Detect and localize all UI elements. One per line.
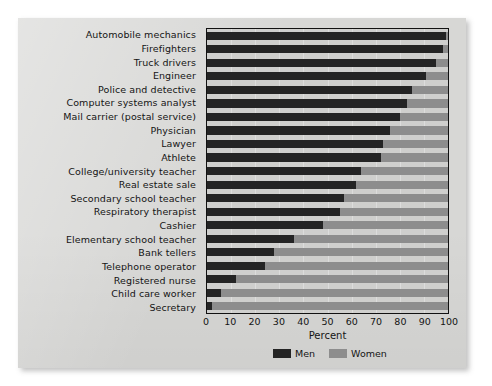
bar-segment-women xyxy=(356,181,448,189)
bar-segment-women xyxy=(323,221,448,229)
bar-segment-men xyxy=(207,275,236,283)
bar-row xyxy=(207,205,448,219)
plot-area xyxy=(206,28,449,314)
bar-row xyxy=(207,56,448,70)
stacked-bar xyxy=(207,126,448,134)
bar-row xyxy=(207,164,448,178)
stacked-bar xyxy=(207,235,448,243)
category-label: Automobile mechanics xyxy=(18,28,201,42)
bar-row xyxy=(207,97,448,111)
category-label: Mail carrier (postal service) xyxy=(18,110,201,124)
bar-segment-women xyxy=(412,86,448,94)
category-label: Cashier xyxy=(18,219,201,233)
category-label: Lawyer xyxy=(18,137,201,151)
bar-segment-men xyxy=(207,32,446,40)
category-label: Secretary xyxy=(18,301,201,315)
bar-segment-women xyxy=(383,140,448,148)
bar-row xyxy=(207,191,448,205)
category-label: Child care worker xyxy=(18,287,201,301)
bar-segment-women xyxy=(446,32,448,40)
bar-row xyxy=(207,43,448,57)
bar-row xyxy=(207,178,448,192)
x-tick-label: 60 xyxy=(346,316,358,327)
x-tick-label: 0 xyxy=(203,316,209,327)
bar-segment-men xyxy=(207,221,323,229)
x-tick-label: 100 xyxy=(440,316,458,327)
bar-row xyxy=(207,110,448,124)
bar-segment-men xyxy=(207,289,221,297)
bar-segment-men xyxy=(207,113,400,121)
bar-segment-women xyxy=(344,194,448,202)
bar-segment-women xyxy=(340,208,448,216)
chart-legend: MenWomen xyxy=(273,348,395,359)
category-label: Engineer xyxy=(18,69,201,83)
legend-item: Men xyxy=(273,348,315,359)
category-label: Athlete xyxy=(18,151,201,165)
bar-segment-women xyxy=(212,302,448,310)
x-tick-label: 20 xyxy=(249,316,261,327)
bar-segment-men xyxy=(207,208,340,216)
bar-row xyxy=(207,70,448,84)
stacked-bar xyxy=(207,221,448,229)
bar-segment-men xyxy=(207,248,274,256)
bar-row xyxy=(207,232,448,246)
category-label: College/university teacher xyxy=(18,164,201,178)
bar-segment-men xyxy=(207,126,390,134)
category-label: Respiratory therapist xyxy=(18,205,201,219)
bar-row xyxy=(207,259,448,273)
bar-segment-women xyxy=(265,262,448,270)
legend-label: Men xyxy=(295,348,315,359)
x-tick-label: 50 xyxy=(321,316,333,327)
bar-segment-men xyxy=(207,45,443,53)
x-tick-label: 40 xyxy=(297,316,309,327)
bar-segment-men xyxy=(207,235,294,243)
bar-row xyxy=(207,218,448,232)
bar-segment-men xyxy=(207,167,361,175)
bar-row xyxy=(207,246,448,260)
bar-segment-women xyxy=(274,248,448,256)
bar-segment-men xyxy=(207,72,426,80)
bar-segment-men xyxy=(207,86,412,94)
x-axis-ticks: 0102030405060708090100 xyxy=(206,315,449,331)
x-tick-label: 80 xyxy=(394,316,406,327)
legend-swatch xyxy=(329,349,347,358)
category-label: Telephone operator xyxy=(18,260,201,274)
category-label: Physician xyxy=(18,123,201,137)
stacked-bar xyxy=(207,181,448,189)
bar-row xyxy=(207,137,448,151)
stacked-bar xyxy=(207,99,448,107)
legend-item: Women xyxy=(329,348,387,359)
bar-segment-women xyxy=(407,99,448,107)
bar-segment-men xyxy=(207,153,381,161)
category-label: Police and detective xyxy=(18,83,201,97)
bar-segment-women xyxy=(381,153,448,161)
stacked-bar xyxy=(207,72,448,80)
bar-segment-women xyxy=(221,289,448,297)
category-axis-labels: Automobile mechanicsFirefightersTruck dr… xyxy=(18,28,201,314)
bar-segment-men xyxy=(207,194,344,202)
bar-row xyxy=(207,273,448,287)
stacked-bar xyxy=(207,45,448,53)
bar-segment-men xyxy=(207,181,356,189)
bar-row xyxy=(207,286,448,300)
bar-segment-men xyxy=(207,262,265,270)
x-tick-label: 90 xyxy=(419,316,431,327)
bar-segment-women xyxy=(390,126,448,134)
screenshot-root: Automobile mechanicsFirefightersTruck dr… xyxy=(0,0,492,386)
stacked-bar xyxy=(207,289,448,297)
bar-segment-women xyxy=(361,167,448,175)
category-label: Elementary school teacher xyxy=(18,232,201,246)
bar-segment-women xyxy=(426,72,448,80)
category-label: Secondary school teacher xyxy=(18,192,201,206)
x-tick-label: 10 xyxy=(224,316,236,327)
stacked-bar xyxy=(207,208,448,216)
bar-row xyxy=(207,29,448,43)
bar-segment-women xyxy=(400,113,448,121)
stacked-bar xyxy=(207,302,448,310)
x-tick-label: 30 xyxy=(273,316,285,327)
x-axis-title: Percent xyxy=(206,330,449,341)
bar-segment-women xyxy=(236,275,448,283)
chart-card: Automobile mechanicsFirefightersTruck dr… xyxy=(18,18,466,368)
category-label: Firefighters xyxy=(18,42,201,56)
bar-segment-women xyxy=(436,59,448,67)
